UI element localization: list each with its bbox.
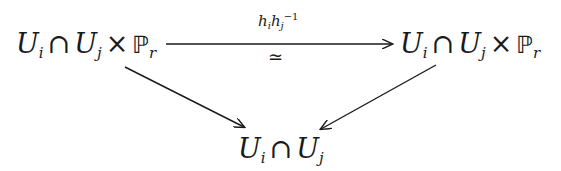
symbol-u: U — [400, 28, 423, 59]
arrow-label-below: ≃ — [268, 48, 283, 66]
arrow-label-above: hihj−1 — [258, 12, 298, 31]
subscript: j — [97, 44, 102, 62]
symbol-u: U — [296, 133, 319, 164]
node-bottom: Ui∩Uj — [238, 135, 324, 166]
projective-space-symbol: ℙ — [132, 31, 149, 59]
superscript: −1 — [284, 11, 299, 22]
subscript: i — [39, 44, 44, 62]
times-symbol: × — [490, 28, 513, 59]
symbol-u: U — [238, 133, 261, 164]
times-symbol: × — [106, 28, 129, 59]
symbol-u: U — [74, 28, 97, 59]
projective-space-symbol: ℙ — [516, 31, 533, 59]
subscript: i — [423, 44, 428, 62]
intersection-symbol: ∩ — [270, 133, 293, 164]
symbol-u: U — [458, 28, 481, 59]
node-top-right: Ui∩Uj×ℙr — [400, 30, 540, 61]
subscript: j — [481, 44, 486, 62]
intersection-symbol: ∩ — [48, 28, 71, 59]
symbol-h: h — [258, 12, 268, 30]
node-top-left: Ui∩Uj×ℙr — [16, 30, 156, 61]
symbol-h: h — [271, 12, 281, 30]
right-diagonal-arrow — [321, 65, 436, 129]
subscript: r — [149, 44, 156, 62]
intersection-symbol: ∩ — [432, 28, 455, 59]
subscript: r — [533, 44, 540, 62]
subscript: j — [319, 149, 324, 167]
symbol-u: U — [16, 28, 39, 59]
subscript: i — [261, 149, 266, 167]
left-diagonal-arrow — [125, 67, 244, 127]
